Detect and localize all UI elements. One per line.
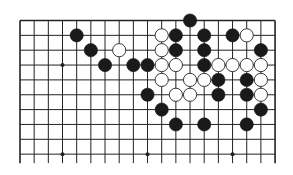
star-point <box>146 152 150 156</box>
black-stone <box>183 14 196 27</box>
white-stone <box>198 73 211 86</box>
white-stone <box>212 58 225 71</box>
white-stone <box>155 58 168 71</box>
white-stone <box>254 58 267 71</box>
star-point <box>61 152 65 156</box>
black-stone <box>98 58 111 71</box>
go-board <box>0 0 293 175</box>
stones-layer <box>70 14 267 131</box>
black-stone <box>254 44 267 57</box>
black-stone <box>70 29 83 42</box>
black-stone <box>127 58 140 71</box>
white-stone <box>169 88 182 101</box>
white-stone <box>155 29 168 42</box>
star-point <box>61 63 65 67</box>
white-stone <box>183 73 196 86</box>
white-stone <box>240 58 253 71</box>
white-stone <box>240 29 253 42</box>
black-stone <box>169 29 182 42</box>
go-board-diagram <box>0 0 293 175</box>
white-stone <box>113 44 126 57</box>
black-stone <box>155 103 168 116</box>
black-stone <box>212 73 225 86</box>
black-stone <box>198 58 211 71</box>
white-stone <box>254 88 267 101</box>
black-stone <box>169 44 182 57</box>
black-stone <box>141 88 154 101</box>
star-point <box>231 152 235 156</box>
black-stone <box>240 88 253 101</box>
white-stone <box>169 58 182 71</box>
black-stone <box>212 88 225 101</box>
black-stone <box>226 29 239 42</box>
black-stone <box>198 44 211 57</box>
white-stone <box>183 88 196 101</box>
black-stone <box>141 58 154 71</box>
white-stone <box>226 58 239 71</box>
white-stone <box>254 73 267 86</box>
black-stone <box>169 118 182 131</box>
black-stone <box>254 103 267 116</box>
black-stone <box>240 118 253 131</box>
black-stone <box>198 29 211 42</box>
white-stone <box>155 73 168 86</box>
black-stone <box>240 73 253 86</box>
black-stone <box>198 118 211 131</box>
white-stone <box>155 44 168 57</box>
black-stone <box>84 44 97 57</box>
